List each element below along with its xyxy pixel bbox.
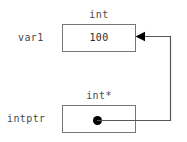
memory-box-var1: 100: [62, 24, 136, 52]
pointer-dot-icon: [93, 116, 102, 125]
type-label-int-pointer: int*: [62, 91, 136, 101]
pointer-arrowhead: [136, 32, 146, 41]
pointer-memory-diagram: int var1 100 int* intptr: [0, 0, 187, 142]
variable-label-var1: var1: [18, 33, 44, 43]
memory-value-var1: 100: [63, 25, 135, 51]
type-label-int: int: [62, 10, 136, 20]
variable-label-intptr: intptr: [7, 114, 46, 124]
